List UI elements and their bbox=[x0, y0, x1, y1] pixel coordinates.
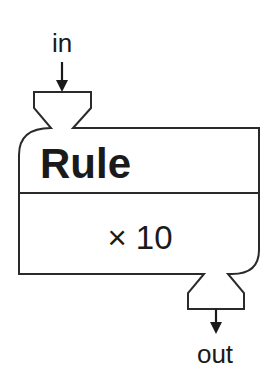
input-arrow-icon bbox=[56, 62, 68, 92]
block-multiplier: × 10 bbox=[107, 219, 172, 256]
rule-block-outline bbox=[19, 92, 259, 309]
block-title: Rule bbox=[40, 140, 131, 187]
output-label: out bbox=[197, 339, 234, 369]
input-label: in bbox=[52, 28, 72, 58]
rule-block-diagram: in Rule × 10 out bbox=[0, 0, 274, 379]
output-arrow-icon bbox=[210, 309, 222, 334]
